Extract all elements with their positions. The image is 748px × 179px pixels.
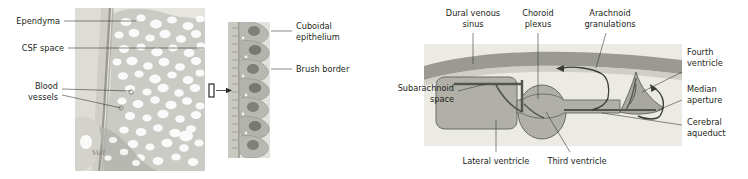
label-fourth-ventricle-line2: ventricle [687,58,723,68]
label-blood-vessels-line2: vessels [28,92,58,102]
label-brush-border: Brush border [296,64,350,74]
label-dural-venous-sinus-line2: sinus [462,19,483,29]
label-median-aperture-line1: Median [687,84,717,94]
label-csf-space: CSF space [22,43,64,53]
right-panel-svg: Dural venous sinus Choroid plexus Arachn… [374,0,748,179]
left-panel-svg: Voll [0,0,374,179]
label-arachnoid-granulations-line2: granulations [584,19,635,29]
label-choroid-plexus-line2: plexus [525,19,552,29]
main-micrograph [75,8,205,171]
label-fourth-ventricle-line1: Fourth [687,47,713,57]
label-lateral-ventricle: Lateral ventricle [463,156,530,166]
figure-root: Voll [0,0,748,179]
label-subarachnoid-space-line2: space [430,94,454,104]
label-ependyma: Ependyma [16,16,60,26]
artist-signature: Voll [92,149,105,157]
inset-micrograph-epithelium [228,21,270,158]
label-subarachnoid-space-line1: Subarachnoid [398,83,454,93]
right-panel-csf-circulation: Dural venous sinus Choroid plexus Arachn… [374,0,748,179]
label-cerebral-aqueduct-line1: Cerebral [687,117,722,127]
label-choroid-plexus-line1: Choroid [522,8,554,18]
label-cuboidal-epithelium-line1: Cuboidal [296,21,332,31]
label-median-aperture-line2: aperture [687,95,722,105]
magnification-region-box [209,84,214,97]
label-dural-venous-sinus-line1: Dural venous [446,8,500,18]
label-blood-vessels-line1: Blood [35,81,58,91]
label-third-ventricle: Third ventricle [546,156,606,166]
label-arachnoid-granulations-line1: Arachnoid [589,8,630,18]
label-cuboidal-epithelium-line2: epithelium [296,32,340,42]
label-cerebral-aqueduct-line2: aqueduct [687,128,726,138]
left-panel-choroid-plexus-histology: Voll [0,0,374,179]
